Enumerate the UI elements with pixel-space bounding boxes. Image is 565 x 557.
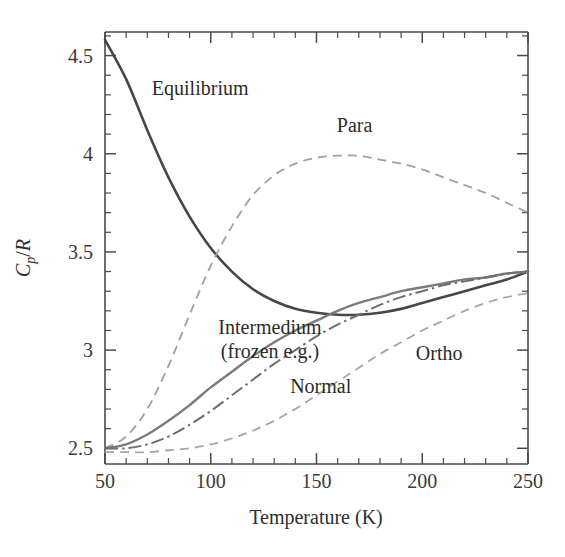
x-tick-label: 200	[407, 470, 437, 492]
x-tick-label: 250	[513, 470, 543, 492]
curve-label-intermedium-line2: (frozen e.g.)	[221, 340, 319, 363]
curve-label-intermedium-line1: Intermedium	[218, 316, 322, 338]
curve-annotations: EquilibriumParaOrthoIntermedium(frozen e…	[152, 77, 463, 397]
figure-container: 50100150200250 2.533.544.5 Temperature (…	[0, 0, 565, 557]
curve-para	[105, 155, 528, 448]
y-tick-label: 4	[83, 143, 93, 165]
x-axis-title: Temperature (K)	[249, 506, 383, 529]
y-axis-title-text: Cp/R	[12, 239, 38, 277]
x-tick-label: 150	[302, 470, 332, 492]
x-tick-label: 100	[196, 470, 226, 492]
x-tick-label: 50	[95, 470, 115, 492]
curve-label-normal: Normal	[290, 375, 352, 397]
y-tick-label: 4.5	[68, 45, 93, 67]
curve-label-ortho: Ortho	[416, 342, 463, 364]
y-tick-label: 3.5	[68, 241, 93, 263]
y-axis-title-denom: R	[12, 239, 34, 252]
curve-label-para: Para	[337, 114, 373, 136]
y-axis-title-sub: p	[23, 257, 38, 265]
y-axis-title: Cp/R	[12, 239, 38, 277]
x-axis-tick-labels: 50100150200250	[95, 470, 543, 492]
y-tick-label: 2.5	[68, 437, 93, 459]
chart-svg: 50100150200250 2.533.544.5 Temperature (…	[0, 0, 565, 557]
curve-label-equilibrium: Equilibrium	[152, 77, 249, 100]
y-tick-label: 3	[83, 339, 93, 361]
y-axis-title-main: C	[12, 263, 34, 277]
y-axis-tick-labels: 2.533.544.5	[68, 45, 93, 460]
